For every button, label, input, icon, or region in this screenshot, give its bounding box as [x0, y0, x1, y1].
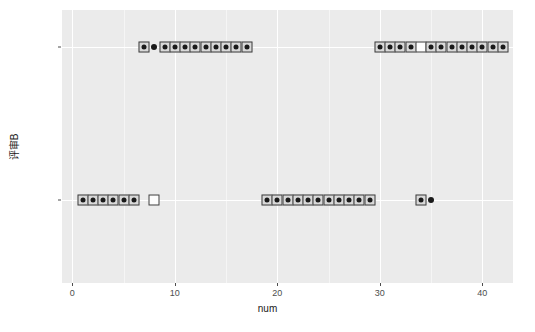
y-axis-tick-mark	[58, 47, 61, 48]
marker-dot	[101, 198, 106, 203]
x-axis-tick-mark	[72, 283, 73, 286]
marker-dot	[234, 45, 239, 50]
marker-dot	[295, 198, 300, 203]
marker-dot	[172, 45, 177, 50]
marker-dot	[90, 198, 95, 203]
x-axis-tick-label: 0	[70, 288, 75, 298]
marker-dot	[121, 198, 126, 203]
x-axis-tick-mark	[175, 283, 176, 286]
marker-dot	[162, 45, 167, 50]
data-point-square	[128, 195, 139, 206]
gridline-minor	[124, 10, 125, 283]
x-axis-title: num	[0, 303, 535, 314]
marker-dot	[418, 198, 423, 203]
x-axis-tick-label: 30	[375, 288, 385, 298]
plot-panel	[62, 10, 513, 283]
data-point-square-empty	[149, 195, 160, 206]
marker-dot	[357, 198, 362, 203]
marker-dot	[131, 198, 136, 203]
marker-dot	[142, 45, 147, 50]
y-axis-tick-mark	[58, 200, 61, 201]
data-point-dot	[151, 44, 157, 50]
marker-dot	[336, 198, 341, 203]
data-point-square	[497, 42, 508, 53]
marker-dot	[500, 45, 505, 50]
marker-dot	[470, 45, 475, 50]
gridline-minor	[329, 10, 330, 283]
gridline-major	[277, 10, 278, 283]
marker-dot	[428, 197, 434, 203]
marker-dot	[275, 198, 280, 203]
marker-dot	[244, 45, 249, 50]
marker-dot	[224, 45, 229, 50]
marker-dot	[347, 198, 352, 203]
marker-dot	[306, 198, 311, 203]
x-axis-tick-mark	[380, 283, 381, 286]
x-axis-tick-mark	[277, 283, 278, 286]
marker-dot	[388, 45, 393, 50]
data-point-square	[415, 195, 426, 206]
x-axis-tick-mark	[482, 283, 483, 286]
marker-dot	[480, 45, 485, 50]
x-axis-tick-label: 10	[170, 288, 180, 298]
marker-dot	[111, 198, 116, 203]
gridline-major	[72, 10, 73, 283]
marker-dot	[449, 45, 454, 50]
data-point-square	[241, 42, 252, 53]
marker-dot	[408, 45, 413, 50]
x-axis-tick-label: 20	[272, 288, 282, 298]
data-point-square	[364, 195, 375, 206]
marker-dot	[398, 45, 403, 50]
marker-dot	[377, 45, 382, 50]
marker-dot	[183, 45, 188, 50]
marker-dot	[439, 45, 444, 50]
marker-dot	[367, 198, 372, 203]
data-point-square	[139, 42, 150, 53]
data-point-dot	[428, 197, 434, 203]
marker-dot	[285, 198, 290, 203]
marker-dot	[459, 45, 464, 50]
marker-dot	[265, 198, 270, 203]
marker-dot	[203, 45, 208, 50]
chart-root: 通过未通过 010203040 num 评审B	[0, 0, 535, 332]
marker-dot	[490, 45, 495, 50]
marker-dot	[429, 45, 434, 50]
marker-dot	[151, 44, 157, 50]
marker-dot	[213, 45, 218, 50]
marker-dot	[316, 198, 321, 203]
y-axis-title: 评审B	[6, 87, 21, 207]
marker-dot	[193, 45, 198, 50]
marker-dot	[80, 198, 85, 203]
x-axis-tick-label: 40	[477, 288, 487, 298]
marker-dot	[326, 198, 331, 203]
